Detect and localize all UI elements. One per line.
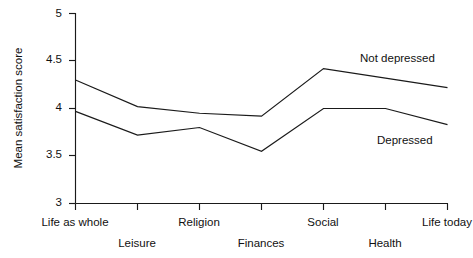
x-tick-label-leisure: Leisure: [118, 237, 156, 249]
series-label-not-depressed: Not depressed: [360, 52, 435, 64]
y-tick-label-3: 3: [56, 196, 62, 208]
y-tick-label-4: 4: [56, 101, 63, 113]
x-tick-label-religion: Religion: [178, 216, 220, 228]
y-tick-label-5: 5: [56, 7, 62, 19]
series-line-not-depressed: [76, 69, 448, 117]
x-tick-label-finances: Finances: [238, 237, 285, 249]
x-tick-label-life-today: Life today: [422, 216, 472, 228]
y-axis-title: Mean satisfaction score: [12, 48, 24, 169]
series-label-depressed: Depressed: [377, 134, 433, 146]
y-tick-label-4.5: 4.5: [46, 53, 62, 65]
chart-container: Mean satisfaction score 5 4.5 4 3.5 3 No…: [0, 0, 473, 258]
y-tick-label-3.5: 3.5: [46, 148, 62, 160]
x-tick-label-life-as-whole: Life as whole: [41, 216, 108, 228]
x-tick-label-health: Health: [368, 237, 401, 249]
line-chart: Mean satisfaction score 5 4.5 4 3.5 3 No…: [0, 0, 473, 258]
x-tick-label-social: Social: [307, 216, 338, 228]
